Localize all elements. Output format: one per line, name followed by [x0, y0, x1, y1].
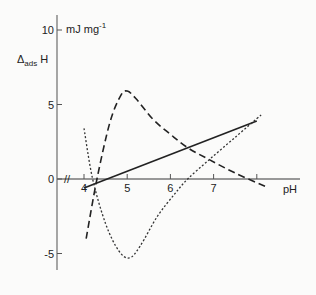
chart: //1050-54567pHmJ mg-1Δads H [0, 0, 316, 295]
series-dashed-line [86, 91, 265, 239]
y-axis-label-subscript: ads [24, 59, 37, 68]
x-axis-label: pH [283, 183, 297, 195]
x-tick-label: 6 [167, 182, 173, 194]
y-tick-label: 5 [48, 99, 54, 111]
x-tick-label: 4 [81, 182, 87, 194]
x-tick-label: 7 [211, 182, 217, 194]
y-unit-label: mJ mg-1 [66, 21, 107, 35]
y-unit-superscript: -1 [99, 21, 107, 30]
y-axis-label-tail: H [37, 53, 48, 65]
y-tick-label: -5 [44, 248, 54, 260]
y-tick-label: 0 [48, 173, 54, 185]
axis-break-mark: // [64, 173, 71, 185]
x-tick-label: 5 [124, 182, 130, 194]
y-axis-label: Δads H [17, 53, 48, 68]
y-tick-label: 10 [42, 24, 54, 36]
